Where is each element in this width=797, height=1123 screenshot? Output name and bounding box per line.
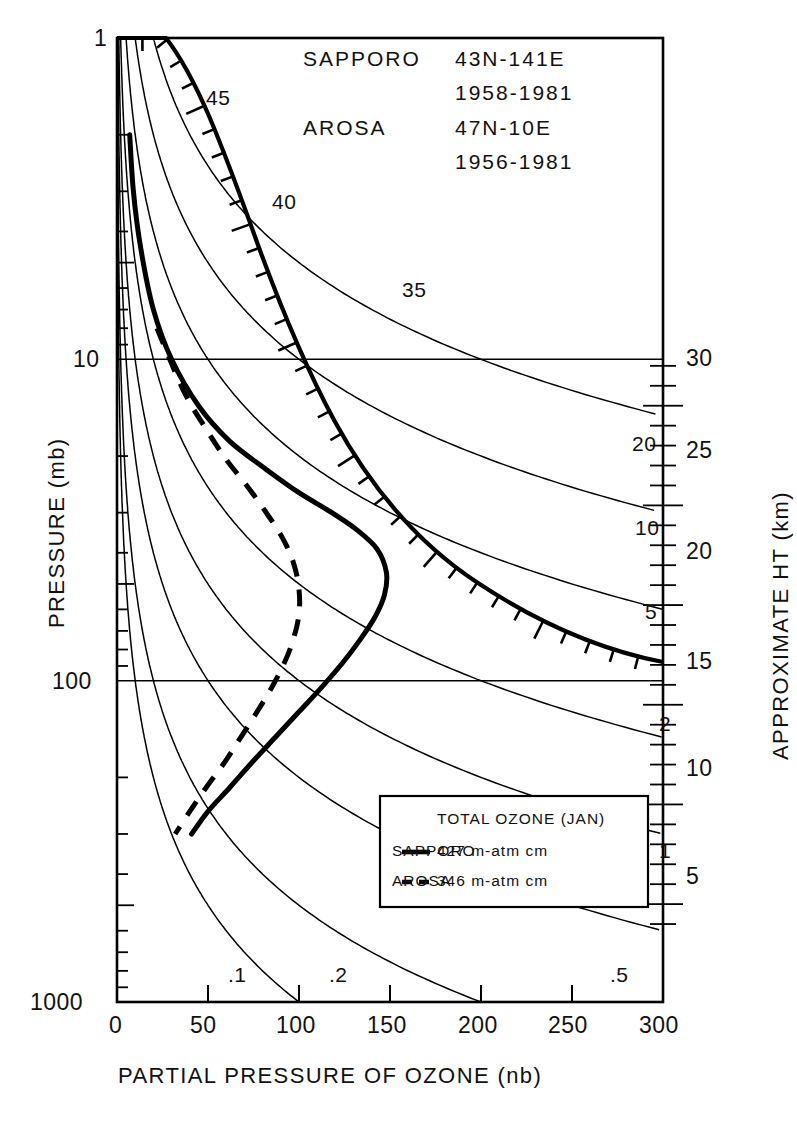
ozone-profile-chart [0, 0, 797, 1123]
x-tick-label-50: 50 [190, 1012, 217, 1039]
y-tick-label-100: 100 [52, 668, 92, 695]
isopleth-label-p2: .2 [329, 963, 348, 987]
y2-tick-label-10: 10 [686, 755, 713, 782]
isopleth-label-20: 20 [632, 432, 656, 456]
x-tick-label-200: 200 [458, 1012, 498, 1039]
header-coords-2: 47N-10E [455, 116, 552, 140]
legend-row-1-value: 427 m-atm cm [437, 842, 548, 860]
isopleth-label-1: 1 [659, 839, 671, 863]
y2-axis-title: APPROXIMATE HT (km) [768, 491, 794, 760]
y-axis-title: PRESSURE (mb) [44, 437, 70, 628]
header-station-2: AROSA [303, 116, 387, 140]
x-axis-title: PARTIAL PRESSURE OF OZONE (nb) [118, 1063, 542, 1089]
legend-row-2-value: 346 m-atm cm [437, 872, 548, 890]
y2-tick-label-20: 20 [686, 538, 713, 565]
y-tick-label-1000: 1000 [30, 989, 83, 1016]
y-tick-label-10: 10 [73, 346, 100, 373]
altitude-reference-curve [117, 38, 663, 669]
y2-tick-label-30: 30 [686, 345, 713, 372]
legend-title: TOTAL OZONE (JAN) [437, 810, 605, 828]
header-years-2: 1956-1981 [455, 150, 573, 174]
alt-label-40: 40 [272, 190, 296, 214]
header-coords-1: 43N-141E [455, 47, 566, 71]
isopleth-label-p1: .1 [228, 963, 247, 987]
alt-label-45: 45 [206, 86, 230, 110]
isopleth-label-5: 5 [645, 600, 657, 624]
header-years-1: 1958-1981 [455, 81, 573, 105]
y2-tick-label-25: 25 [686, 437, 713, 464]
isopleth-label-10: 10 [635, 516, 659, 540]
x-tick-label-100: 100 [276, 1012, 316, 1039]
bottom-axis-ticks [117, 985, 663, 1002]
y2-tick-label-5: 5 [686, 863, 699, 890]
x-tick-label-250: 250 [548, 1012, 588, 1039]
x-tick-label-0: 0 [109, 1012, 122, 1039]
y-tick-label-1: 1 [94, 25, 107, 52]
arosa-profile-curve [157, 328, 300, 834]
figure-canvas: SAPPORO 43N-141E 1958-1981 AROSA 47N-10E… [0, 0, 797, 1123]
header-station-1: SAPPORO [303, 47, 421, 71]
x-tick-label-150: 150 [367, 1012, 407, 1039]
y2-tick-label-15: 15 [686, 648, 713, 675]
isopleth-label-p5: .5 [610, 963, 629, 987]
alt-label-35: 35 [402, 278, 426, 302]
x-tick-label-300: 300 [639, 1012, 679, 1039]
isopleth-label-2: 2 [659, 712, 671, 736]
